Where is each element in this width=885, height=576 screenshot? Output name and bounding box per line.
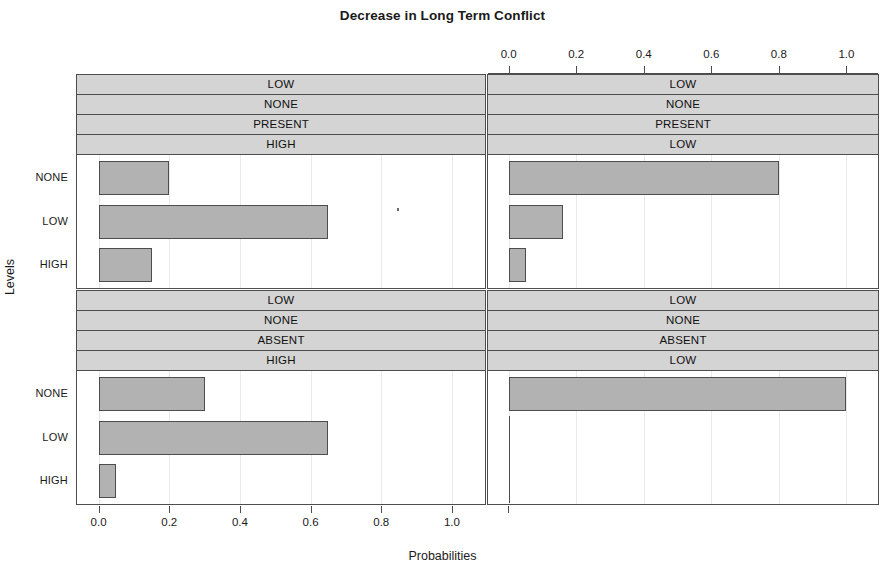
bar bbox=[509, 248, 526, 282]
bar bbox=[509, 377, 847, 411]
strip-label: LOW bbox=[77, 291, 485, 311]
bar bbox=[99, 377, 205, 411]
strip-stack-bottom-right: LOWNONEABSENTLOW bbox=[488, 291, 878, 371]
y-axis-tick-label: HIGH bbox=[8, 258, 68, 270]
plot-area-top-left bbox=[77, 155, 485, 288]
top-axis-tick bbox=[711, 66, 712, 73]
plot-area-bottom-left bbox=[77, 371, 485, 504]
bottom-axis-tick bbox=[99, 506, 100, 513]
gridline bbox=[846, 371, 847, 504]
strip-label: HIGH bbox=[77, 135, 485, 155]
plot-area-top-right bbox=[488, 155, 878, 288]
y-axis-tick-label: LOW bbox=[8, 431, 68, 443]
panel-top-right: LOWNONEPRESENTLOW bbox=[487, 74, 879, 289]
bottom-axis-tick-label: 1.0 bbox=[432, 516, 472, 528]
y-axis-tick-label: NONE bbox=[8, 171, 68, 183]
bottom-axis-tick bbox=[452, 506, 453, 513]
x-axis-title: Probabilities bbox=[0, 549, 885, 563]
top-axis-tick bbox=[576, 66, 577, 73]
strip-label: LOW bbox=[488, 135, 878, 155]
bar bbox=[99, 421, 329, 455]
bottom-axis-tick-label: 0.2 bbox=[149, 516, 189, 528]
bottom-axis-tick bbox=[169, 506, 170, 513]
panel-bottom-left: LOWNONEABSENTHIGH bbox=[76, 290, 486, 505]
y-axis-tick-label: HIGH bbox=[8, 474, 68, 486]
y-axis-title: Levels bbox=[3, 247, 17, 307]
strip-label: ABSENT bbox=[488, 331, 878, 351]
strip-stack-top-right: LOWNONEPRESENTLOW bbox=[488, 75, 878, 155]
strip-label: ABSENT bbox=[77, 331, 485, 351]
strip-label: LOW bbox=[488, 351, 878, 371]
top-axis-tick-label: 0.0 bbox=[489, 48, 529, 60]
strip-label: HIGH bbox=[77, 351, 485, 371]
chart-root: Decrease in Long Term Conflict 0.00.20.4… bbox=[0, 0, 885, 576]
y-axis-tick-label: LOW bbox=[8, 215, 68, 227]
bottom-axis-tick bbox=[240, 506, 241, 513]
bar bbox=[509, 416, 510, 460]
top-axis-tick bbox=[509, 66, 510, 73]
bar bbox=[509, 161, 779, 195]
strip-stack-bottom-left: LOWNONEABSENTHIGH bbox=[77, 291, 485, 371]
page-title: Decrease in Long Term Conflict bbox=[0, 8, 885, 23]
stray-speck bbox=[397, 208, 399, 211]
top-axis-tick bbox=[846, 66, 847, 73]
bar bbox=[99, 464, 117, 498]
top-axis-tick bbox=[779, 66, 780, 73]
bottom-axis-tick-label: 0.4 bbox=[220, 516, 260, 528]
strip-label: LOW bbox=[77, 75, 485, 95]
panel-top-left: LOWNONEPRESENTHIGH bbox=[76, 74, 486, 289]
bar bbox=[99, 161, 170, 195]
gridline bbox=[452, 155, 453, 288]
bar bbox=[99, 205, 329, 239]
strip-label: LOW bbox=[488, 291, 878, 311]
strip-label: NONE bbox=[488, 95, 878, 115]
bottom-axis-tick bbox=[311, 506, 312, 513]
bottom-axis-tick-label: 0.8 bbox=[361, 516, 401, 528]
strip-stack-top-left: LOWNONEPRESENTHIGH bbox=[77, 75, 485, 155]
top-axis-tick bbox=[644, 66, 645, 73]
bottom-axis-tick-label: 0.6 bbox=[291, 516, 331, 528]
plot-area-bottom-right bbox=[488, 371, 878, 504]
y-axis-tick-label: NONE bbox=[8, 387, 68, 399]
gridline bbox=[381, 155, 382, 288]
bar bbox=[509, 205, 563, 239]
gridline bbox=[452, 371, 453, 504]
gridline bbox=[846, 155, 847, 288]
top-axis-tick-label: 0.4 bbox=[624, 48, 664, 60]
strip-label: NONE bbox=[77, 95, 485, 115]
top-axis-tick-label: 1.0 bbox=[826, 48, 866, 60]
panel-bottom-right: LOWNONEABSENTLOW bbox=[487, 290, 879, 505]
top-axis-tick-label: 0.6 bbox=[691, 48, 731, 60]
strip-label: NONE bbox=[77, 311, 485, 331]
strip-label: LOW bbox=[488, 75, 878, 95]
bar bbox=[509, 459, 510, 503]
strip-label: NONE bbox=[488, 311, 878, 331]
top-axis-tick-label: 0.8 bbox=[759, 48, 799, 60]
gridline bbox=[779, 155, 780, 288]
bottom-axis-tick bbox=[508, 506, 509, 513]
strip-label: PRESENT bbox=[488, 115, 878, 135]
gridline bbox=[381, 371, 382, 504]
bottom-axis-tick-label: 0.0 bbox=[79, 516, 119, 528]
bottom-axis-tick bbox=[381, 506, 382, 513]
top-axis-tick-label: 0.2 bbox=[556, 48, 596, 60]
strip-label: PRESENT bbox=[77, 115, 485, 135]
bar bbox=[99, 248, 152, 282]
